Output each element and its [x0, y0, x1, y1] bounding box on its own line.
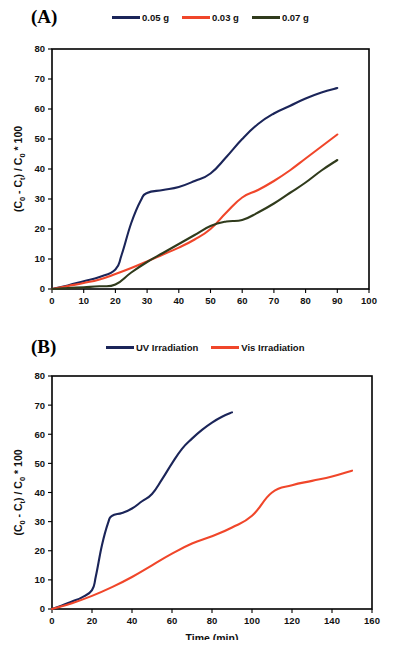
svg-text:40: 40 [174, 295, 185, 306]
legend-swatch-olive [252, 16, 280, 19]
legend-item: 0.05 g [112, 12, 169, 23]
svg-text:60: 60 [237, 295, 248, 306]
panel-b-plot: 01020304050607080020406080100120140160Ti… [0, 358, 410, 640]
series-line [52, 160, 337, 289]
legend-item: 0.07 g [252, 12, 309, 23]
svg-text:0: 0 [49, 295, 54, 306]
svg-text:40: 40 [34, 487, 45, 498]
panel-a-legend: 0.05 g 0.03 g 0.07 g [112, 12, 309, 23]
svg-text:70: 70 [34, 400, 45, 411]
legend-item: Vis Irradiation [211, 342, 304, 353]
svg-text:50: 50 [34, 133, 45, 144]
legend-label: 0.03 g [212, 12, 239, 23]
panel-b-svg: 01020304050607080020406080100120140160Ti… [0, 358, 410, 640]
svg-text:30: 30 [34, 193, 45, 204]
panel-a-svg: 010203040506070800102030405060708090100T… [0, 28, 410, 310]
series-line [52, 135, 337, 290]
svg-text:(C0 - Ct) / C0 * 100: (C0 - Ct) / C0 * 100 [12, 126, 27, 212]
svg-text:70: 70 [34, 73, 45, 84]
svg-text:80: 80 [34, 43, 45, 54]
svg-text:Time (min): Time (min) [186, 632, 239, 640]
svg-text:90: 90 [332, 295, 343, 306]
svg-text:0: 0 [40, 283, 45, 294]
svg-text:10: 10 [78, 295, 89, 306]
panel-a-plot: 010203040506070800102030405060708090100T… [0, 28, 410, 308]
svg-text:160: 160 [364, 615, 380, 626]
legend-swatch-navy [106, 346, 134, 349]
svg-text:20: 20 [34, 545, 45, 556]
svg-text:50: 50 [205, 295, 216, 306]
legend-item: 0.03 g [182, 12, 239, 23]
svg-text:40: 40 [127, 615, 138, 626]
svg-text:60: 60 [34, 103, 45, 114]
series-line [52, 471, 352, 609]
svg-text:30: 30 [142, 295, 153, 306]
series-line [52, 412, 232, 609]
svg-text:140: 140 [324, 615, 340, 626]
panel-a: (A) 0.05 g 0.03 g 0.07 g 010203040506070… [0, 0, 410, 332]
svg-text:100: 100 [361, 295, 377, 306]
legend-item: UV Irradiation [106, 342, 198, 353]
svg-text:30: 30 [34, 516, 45, 527]
svg-text:60: 60 [34, 429, 45, 440]
svg-text:(C0 - Ct) / C0 * 100: (C0 - Ct) / C0 * 100 [12, 449, 27, 535]
svg-text:60: 60 [167, 615, 178, 626]
legend-label: 0.07 g [282, 12, 309, 23]
legend-swatch-red [182, 16, 210, 19]
svg-text:0: 0 [40, 603, 45, 614]
svg-text:100: 100 [244, 615, 260, 626]
legend-swatch-navy [112, 16, 140, 19]
panel-b-legend: UV Irradiation Vis Irradiation [106, 342, 304, 353]
svg-text:20: 20 [34, 223, 45, 234]
panel-a-label: (A) [31, 6, 57, 28]
svg-text:80: 80 [34, 370, 45, 381]
svg-text:10: 10 [34, 574, 45, 585]
svg-text:50: 50 [34, 458, 45, 469]
panel-b: (B) UV Irradiation Vis Irradiation 01020… [0, 332, 410, 657]
svg-text:80: 80 [300, 295, 311, 306]
legend-label: Vis Irradiation [241, 342, 304, 353]
svg-text:20: 20 [110, 295, 121, 306]
legend-label: UV Irradiation [136, 342, 198, 353]
panel-b-label: (B) [31, 336, 56, 358]
legend-label: 0.05 g [142, 12, 169, 23]
svg-text:70: 70 [269, 295, 280, 306]
series-line [52, 88, 337, 289]
figure-container: (A) 0.05 g 0.03 g 0.07 g 010203040506070… [0, 0, 410, 657]
svg-text:0: 0 [49, 615, 54, 626]
svg-text:80: 80 [207, 615, 218, 626]
svg-text:10: 10 [34, 253, 45, 264]
legend-swatch-red [211, 346, 239, 349]
svg-text:120: 120 [284, 615, 300, 626]
svg-text:20: 20 [87, 615, 98, 626]
svg-text:40: 40 [34, 163, 45, 174]
